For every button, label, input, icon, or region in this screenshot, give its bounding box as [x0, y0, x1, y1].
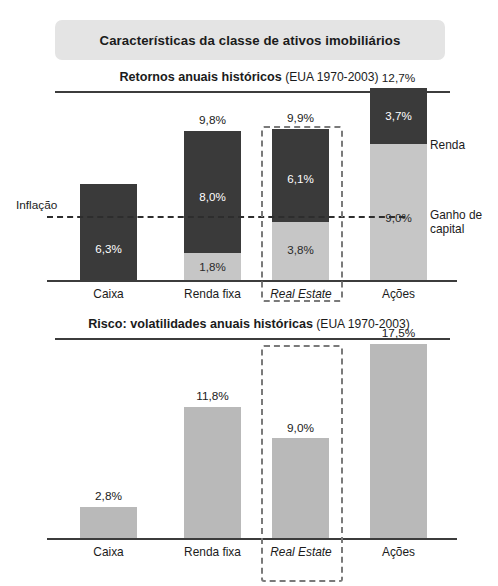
category-label-acoes: Ações	[370, 287, 427, 301]
category-label-renda-fixa: Renda fixa	[172, 287, 253, 301]
bar-segment-capital: 9,0%	[370, 144, 427, 280]
value-label-risk-caixa: 2,8%	[80, 489, 137, 503]
legend-label-income: Renda	[430, 138, 465, 152]
bar-risk-renda-fixa	[184, 407, 241, 538]
total-label-renda-fixa: 9,8%	[184, 113, 241, 127]
bar-risk-real-estate	[272, 438, 329, 538]
segment-value-capital: 3,8%	[287, 244, 313, 256]
bar-returns-renda-fixa: 8,0% 1,8%	[184, 131, 241, 280]
category-label-risk-real-estate: Real Estate	[262, 545, 340, 559]
segment-value-income: 3,7%	[385, 110, 411, 122]
bar-risk-caixa	[80, 507, 137, 538]
bar-risk-acoes	[370, 344, 427, 538]
header-banner: Características da classe de ativos imob…	[55, 20, 445, 60]
category-label-real-estate: Real Estate	[262, 287, 340, 301]
segment-value-capital: 1,8%	[199, 261, 225, 273]
inflation-label: Inflação	[16, 198, 57, 212]
category-label-risk-acoes: Ações	[370, 545, 427, 559]
risk-axis-line	[47, 538, 457, 540]
segment-value-capital: 9,0%	[385, 212, 411, 224]
returns-title-sub: (EUA 1970-2003)	[282, 70, 379, 84]
risk-title-main: Risco: volatilidades anuais históricas	[88, 317, 313, 331]
value-label-risk-acoes: 17,5%	[370, 326, 427, 340]
bar-returns-acoes: 3,7% 9,0%	[370, 88, 427, 280]
segment-value-income: 8,0%	[199, 191, 225, 203]
bar-returns-caixa: 6,3%	[80, 184, 137, 280]
inflation-reference-line	[47, 216, 405, 218]
returns-axis-line	[47, 280, 457, 282]
returns-chart: 6,3% 8,0% 1,8% 6,1% 3,8% 3,7%	[0, 95, 498, 300]
value-label-risk-real-estate: 9,0%	[272, 421, 329, 435]
page-title: Características da classe de ativos imob…	[100, 33, 401, 48]
category-label-caixa: Caixa	[80, 287, 137, 301]
category-label-risk-renda-fixa: Renda fixa	[172, 545, 253, 559]
bar-segment-income: 3,7%	[370, 88, 427, 144]
segment-value-income: 6,1%	[287, 173, 313, 185]
value-label-risk-renda-fixa: 11,8%	[184, 389, 241, 403]
legend-label-capital: Ganho de capital	[430, 208, 482, 236]
total-label-acoes: 12,7%	[370, 71, 427, 85]
total-label-real-estate: 9,9%	[272, 111, 329, 125]
bar-segment-income: 6,1%	[272, 129, 329, 222]
bar-segment-income: 6,3%	[80, 184, 137, 280]
bar-segment-income: 8,0%	[184, 131, 241, 253]
bar-segment-capital: 3,8%	[272, 222, 329, 280]
segment-value-income: 6,3%	[95, 243, 121, 255]
bar-returns-real-estate: 6,1% 3,8%	[272, 129, 329, 280]
category-label-risk-caixa: Caixa	[80, 545, 137, 559]
returns-title-main: Retornos anuais históricos	[119, 70, 281, 84]
chart-page: Características da classe de ativos imob…	[0, 0, 498, 586]
bar-segment-capital: 1,8%	[184, 253, 241, 280]
